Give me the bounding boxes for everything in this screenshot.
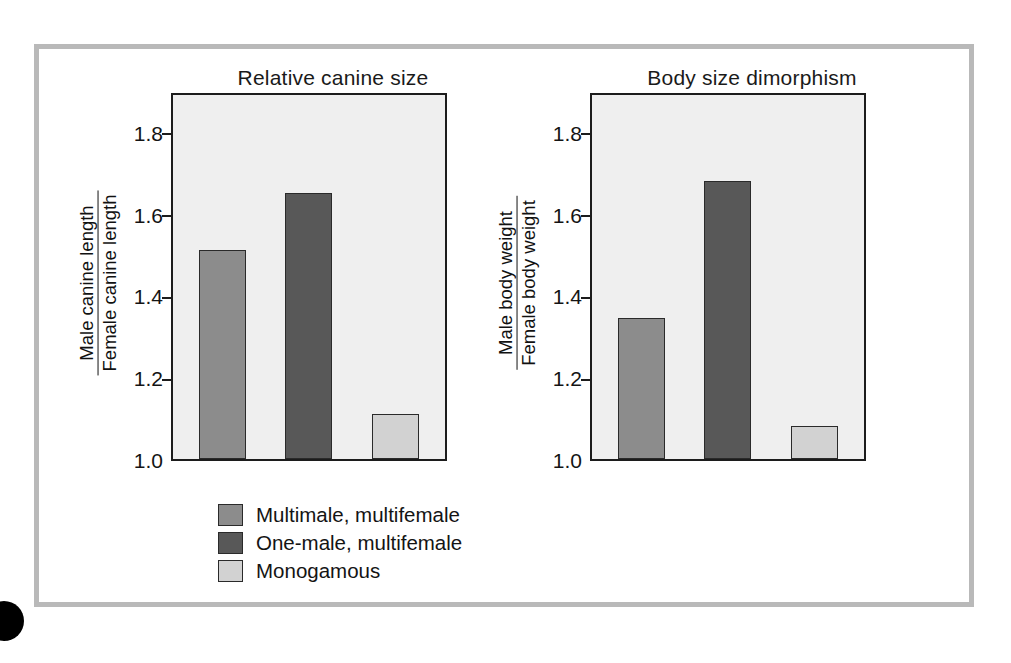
y-axis-tick-labels-right: 1.01.21.41.61.8 [538, 93, 586, 473]
bar-left-0 [199, 250, 246, 459]
bar-right-0 [618, 318, 665, 459]
y-tick-label-left-3: 1.6 [134, 204, 163, 228]
y-axis-label-left-denominator: Female canine length [99, 191, 120, 376]
legend-item-2: Monogamous [218, 557, 462, 585]
legend-item-1: One-male, multifemale [218, 529, 462, 557]
decorative-corner-dot [0, 601, 24, 641]
chart-panel-body-size-dimorphism: Body size dimorphism Male body weight Fe… [494, 63, 914, 473]
y-axis-label-right-denominator: Female body weight [518, 196, 539, 370]
y-axis-label-right: Male body weight Female body weight [494, 93, 540, 473]
legend-label-1: One-male, multifemale [256, 531, 462, 555]
bar-left-1 [285, 193, 332, 459]
chart-title-left: Relative canine size [75, 63, 495, 93]
y-tick-label-right-3: 1.6 [553, 204, 582, 228]
y-tick-mark-left-4 [162, 133, 173, 135]
chart-title-right: Body size dimorphism [494, 63, 914, 93]
y-tick-mark-right-1 [581, 379, 592, 381]
y-tick-mark-left-1 [162, 379, 173, 381]
chart-panels: Relative canine size Male canine length … [39, 49, 969, 602]
bar-right-2 [791, 426, 838, 459]
y-tick-mark-left-3 [162, 215, 173, 217]
y-tick-label-right-1: 1.2 [553, 367, 582, 391]
plot-area-left [171, 93, 447, 461]
legend-swatch-0 [218, 504, 243, 526]
bar-group-right [592, 95, 864, 459]
plot-area-right [590, 93, 866, 461]
bar-left-2 [372, 414, 419, 459]
y-axis-label-left: Male canine length Female canine length [75, 93, 121, 473]
bar-group-left [173, 95, 445, 459]
y-tick-label-right-4: 1.8 [553, 122, 582, 146]
y-tick-label-right-0: 1.0 [553, 449, 582, 473]
y-tick-label-left-0: 1.0 [134, 449, 163, 473]
figure-frame: Relative canine size Male canine length … [34, 44, 974, 607]
y-axis-tick-labels-left: 1.01.21.41.61.8 [119, 93, 167, 473]
y-tick-label-right-2: 1.4 [553, 285, 582, 309]
y-axis-label-right-numerator: Male body weight [496, 196, 518, 370]
y-tick-label-left-1: 1.2 [134, 367, 163, 391]
y-tick-label-left-4: 1.8 [134, 122, 163, 146]
legend-label-0: Multimale, multifemale [256, 503, 460, 527]
y-tick-label-left-2: 1.4 [134, 285, 163, 309]
y-axis-label-left-numerator: Male canine length [77, 191, 99, 376]
legend-swatch-1 [218, 532, 243, 554]
legend-item-0: Multimale, multifemale [218, 501, 462, 529]
y-tick-mark-right-2 [581, 297, 592, 299]
plot-row-right: Male body weight Female body weight 1.01… [494, 93, 914, 473]
y-tick-mark-left-2 [162, 297, 173, 299]
legend-label-2: Monogamous [256, 559, 380, 583]
y-tick-mark-right-4 [581, 133, 592, 135]
legend-swatch-2 [218, 560, 243, 582]
bar-right-1 [704, 181, 751, 459]
y-tick-mark-right-3 [581, 215, 592, 217]
plot-row-left: Male canine length Female canine length … [75, 93, 495, 473]
chart-panel-relative-canine-size: Relative canine size Male canine length … [75, 63, 495, 473]
chart-legend: Multimale, multifemaleOne-male, multifem… [218, 501, 462, 585]
